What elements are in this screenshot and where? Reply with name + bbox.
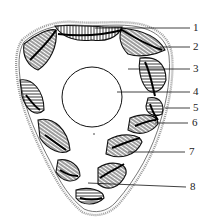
central-cavity-circle xyxy=(62,67,122,127)
label-3: 3 xyxy=(193,63,199,74)
label-8: 8 xyxy=(190,181,196,192)
cross-section-diagram xyxy=(0,0,215,222)
label-5: 5 xyxy=(193,102,199,113)
label-1: 1 xyxy=(193,22,199,33)
speck xyxy=(93,133,95,135)
label-7: 7 xyxy=(189,146,195,157)
label-2: 2 xyxy=(193,41,199,52)
label-4: 4 xyxy=(193,86,199,97)
label-6: 6 xyxy=(192,117,198,128)
